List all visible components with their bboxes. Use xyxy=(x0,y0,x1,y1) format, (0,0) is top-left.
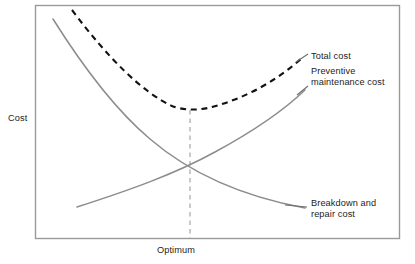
series-label-preventive-line2: maintenance cost xyxy=(311,77,385,87)
series-label-breakdown-line2: repair cost xyxy=(311,209,355,219)
series-label-breakdown-and-repair-cost: Breakdown andrepair cost xyxy=(311,198,376,220)
chart-background xyxy=(0,0,415,264)
series-label-preventive-maintenance-cost: Preventivemaintenance cost xyxy=(311,66,385,88)
series-label-preventive-line1: Preventive xyxy=(311,66,355,76)
chart-canvas xyxy=(0,0,415,264)
series-label-breakdown-line1: Breakdown and xyxy=(311,198,376,208)
y-axis-label: Cost xyxy=(8,113,27,124)
series-label-total-cost: Total cost xyxy=(311,51,351,62)
x-axis-label: Optimum xyxy=(157,245,195,256)
chart-figure: Cost Optimum Total cost Preventivemainte… xyxy=(0,0,415,264)
